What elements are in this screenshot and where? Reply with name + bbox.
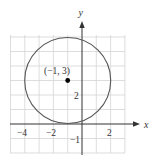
tick-label-y-2: 2 (74, 91, 79, 101)
center-point-label: (−1, 3) (44, 66, 70, 77)
tick-label-x-neg4: −4 (17, 128, 27, 138)
y-axis-label: y (78, 7, 84, 18)
center-point (65, 78, 70, 83)
x-axis-label: x (143, 119, 149, 130)
tick-label-x-neg2: −2 (46, 128, 56, 138)
x-axis (10, 121, 140, 126)
coordinate-plane: x y (−1, 3) −4 −2 2 2 −1 (0, 0, 158, 163)
tick-label-y-neg1: −1 (70, 135, 80, 145)
tick-label-x-2: 2 (107, 128, 112, 138)
y-axis-arrow-icon (79, 21, 84, 28)
x-axis-arrow-icon (133, 121, 140, 126)
